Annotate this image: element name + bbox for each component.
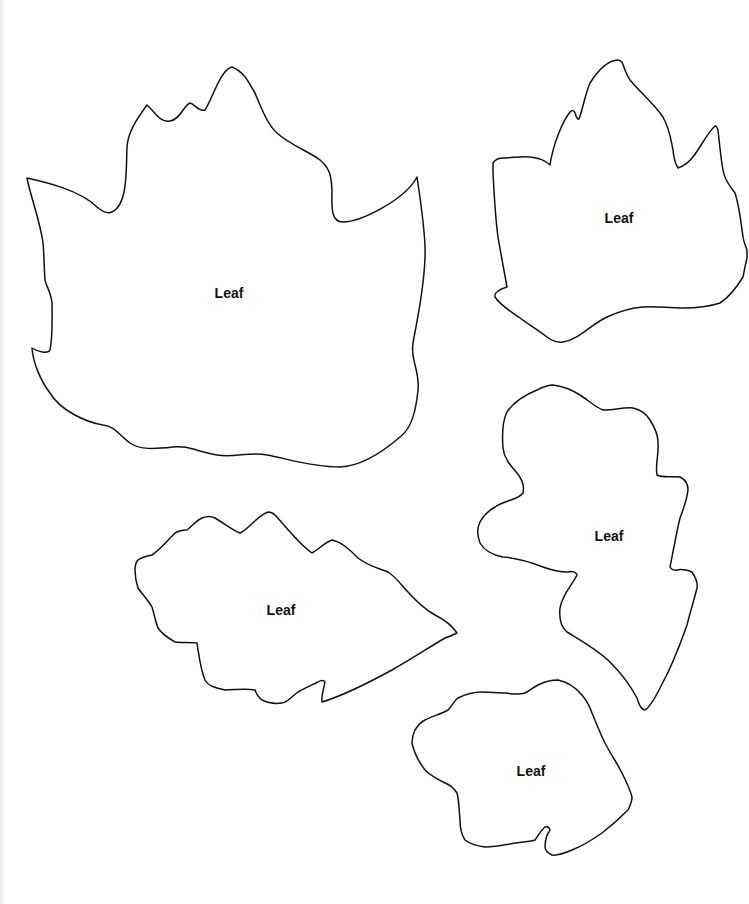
top-right-leaf-label: Leaf (605, 210, 634, 226)
leaf-template-canvas: Leaf Leaf Leaf Leaf Leaf (0, 0, 749, 904)
large-leaf-outline (27, 67, 425, 467)
top-right-leaf: Leaf (493, 60, 747, 342)
bottom-right-leaf-label: Leaf (517, 763, 546, 779)
middle-right-leaf-label: Leaf (595, 528, 624, 544)
large-leaf: Leaf (27, 67, 425, 467)
top-right-leaf-outline (493, 60, 747, 342)
bottom-left-leaf: Leaf (135, 512, 457, 703)
large-leaf-label: Leaf (215, 285, 244, 301)
leaf-template-page: Leaf Leaf Leaf Leaf Leaf (0, 0, 749, 904)
middle-right-leaf: Leaf (478, 385, 698, 710)
bottom-right-leaf: Leaf (412, 680, 632, 855)
bottom-left-leaf-label: Leaf (267, 602, 296, 618)
middle-right-leaf-outline (478, 385, 698, 710)
bottom-left-leaf-outline (135, 512, 457, 703)
